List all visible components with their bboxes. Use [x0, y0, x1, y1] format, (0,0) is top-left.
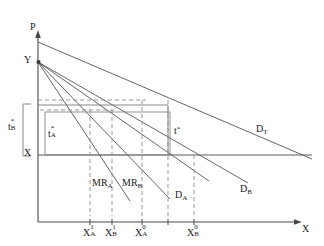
x-tick-label-XA0-scripts: 0A — [142, 226, 147, 236]
label-t-star-sup: * — [177, 125, 181, 133]
y-axis-arrow-icon — [35, 30, 41, 38]
x-tick-label-XA1: X1A — [83, 226, 95, 238]
curve-label-MRA: MRA — [92, 178, 113, 190]
curve-label-DB: DB — [240, 184, 252, 196]
x-tick-label-XB1-base: X — [105, 227, 112, 238]
curve-DB — [38, 62, 248, 183]
x-tick-label-XA1-scripts: 1A — [90, 226, 95, 236]
y-intercept-label: Y — [24, 55, 31, 65]
curve-label-MRB-sub: B — [138, 182, 143, 190]
label-t-star-B: t*B — [8, 120, 16, 132]
label-t-star-A-scripts: *A — [51, 127, 56, 137]
curve-label-DA: DA — [175, 190, 187, 202]
x-tick-label-XB0-scripts: 0B — [194, 226, 199, 236]
x-tick-label-XB1-sub: B — [112, 231, 117, 238]
label-t-star-B-scripts: *B — [11, 120, 16, 130]
curve-label-MRA-sub: A — [108, 182, 113, 190]
x-tick-label-XA0-base: X — [135, 227, 142, 238]
Y-point-marker — [36, 60, 40, 64]
price-level-label-X: X — [24, 148, 31, 158]
axis-label-X: X — [302, 224, 309, 234]
curve-label-MRB: MRB — [122, 178, 142, 190]
curve-label-MRB-base: MR — [122, 177, 138, 188]
curve-label-DT-sub: T — [263, 128, 267, 136]
x-axis-arrow-icon — [294, 219, 302, 225]
curve-label-DB-sub: B — [247, 188, 252, 196]
x-tick-label-XA1-base: X — [83, 227, 90, 238]
x-tick-label-XA0: X0A — [135, 226, 147, 238]
axis-label-P: P — [30, 22, 36, 32]
x-tick-label-XB0-sub: B — [194, 231, 199, 238]
economics-demand-tax-diagram: P X Y X t*B t*A t* DT DB DA MRA MRB X1A … — [0, 0, 324, 246]
x-tick-label-XB0-base: X — [187, 227, 194, 238]
x-tick-label-XB0: X0B — [187, 226, 199, 238]
label-t-star-A-sub: A — [51, 132, 56, 139]
curve-label-DA-sub: A — [182, 194, 187, 202]
curve-label-MRA-base: MR — [92, 177, 108, 188]
diagram-canvas — [0, 0, 324, 246]
x-tick-label-XB1-scripts: 1B — [112, 226, 117, 236]
label-t-star-B-sub: B — [11, 125, 16, 132]
label-t-star-A: t*A — [48, 127, 56, 139]
curve-label-DT: DT — [256, 124, 268, 136]
curves-group — [38, 42, 312, 201]
curve-DA — [38, 62, 209, 181]
x-tick-label-XB1: X1B — [105, 226, 117, 238]
label-t-star: t* — [174, 126, 180, 136]
x-tick-label-XA0-sub: A — [142, 231, 147, 238]
x-tick-label-XA1-sub: A — [90, 231, 95, 238]
